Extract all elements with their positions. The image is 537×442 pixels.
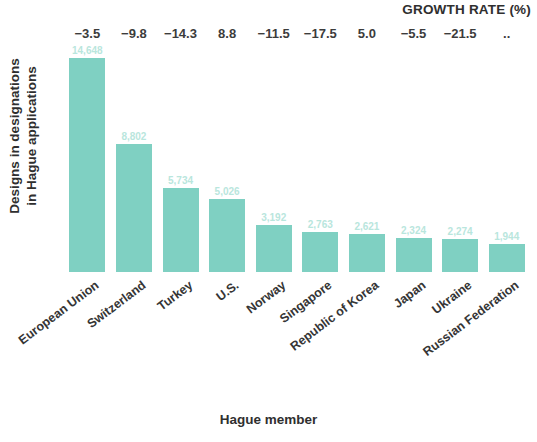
x-axis-tick-label: European Union — [16, 278, 102, 347]
bar-value-label: 14,648 — [72, 45, 103, 56]
growth-rate-values: −3.5−9.8−14.38.8−11.5−17.55.0−5.5−21.5.. — [0, 26, 537, 46]
bar — [116, 144, 152, 272]
x-axis-tick-labels: European UnionSwitzerlandTurkeyU.S.Norwa… — [0, 272, 537, 392]
x-axis-tick-label: Republic of Korea — [287, 278, 381, 354]
bar — [489, 244, 525, 272]
x-axis-tick-label: Japan — [391, 278, 428, 311]
x-axis-tick-label: Turkey — [154, 278, 194, 313]
growth-rate-value: −17.5 — [304, 26, 337, 41]
bar-value-label: 5,026 — [215, 186, 240, 197]
bar — [302, 232, 338, 272]
growth-rate-value: −14.3 — [164, 26, 197, 41]
bar — [209, 199, 245, 272]
bar-value-label: 8,802 — [121, 131, 146, 142]
bar — [163, 188, 199, 272]
bar — [442, 239, 478, 272]
bar-value-label: 5,734 — [168, 175, 193, 186]
bar — [396, 238, 432, 272]
bar-value-label: 3,192 — [261, 212, 286, 223]
bar-value-label: 2,274 — [448, 226, 473, 237]
x-axis-title: Hague member — [0, 412, 537, 427]
growth-rate-value: −5.5 — [401, 26, 427, 41]
growth-rate-value: −9.8 — [121, 26, 147, 41]
bar-value-label: 1,944 — [494, 231, 519, 242]
growth-rate-value: 8.8 — [218, 26, 236, 41]
growth-rate-value: 5.0 — [358, 26, 376, 41]
growth-rate-value: −21.5 — [444, 26, 477, 41]
bar — [256, 225, 292, 272]
growth-rate-value: .. — [503, 26, 510, 41]
x-axis-tick-label: U.S. — [214, 278, 242, 304]
plot-area: 14,6488,8025,7345,0263,1922,7632,6212,32… — [0, 46, 537, 272]
growth-rate-value: −3.5 — [74, 26, 100, 41]
bar — [349, 234, 385, 272]
bar-value-label: 2,621 — [354, 221, 379, 232]
bar-chart: GROWTH RATE (%) −3.5−9.8−14.38.8−11.5−17… — [0, 0, 537, 442]
growth-rate-value: −11.5 — [258, 26, 290, 41]
bar-value-label: 2,324 — [401, 225, 426, 236]
bar-value-label: 2,763 — [308, 219, 333, 230]
growth-rate-title: GROWTH RATE (%) — [402, 2, 531, 17]
bar — [69, 58, 105, 272]
